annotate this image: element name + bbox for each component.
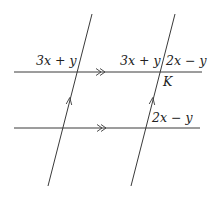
angle-label-bottom-right: 2x − y <box>152 112 193 125</box>
angle-label-text: 3x + y <box>36 53 77 68</box>
angle-label-top-right-right: 2x − y <box>166 55 207 68</box>
angle-label-text: 2x − y <box>166 53 207 68</box>
angle-label-top-left: 3x + y <box>36 55 77 68</box>
point-label-text: K <box>163 74 172 89</box>
angle-label-text: 3x + y <box>120 53 161 68</box>
point-label-k: K <box>163 76 172 89</box>
angle-label-top-right-left: 3x + y <box>120 55 161 68</box>
parallel-lines-diagram <box>0 0 215 198</box>
angle-label-text: 2x − y <box>152 110 193 125</box>
